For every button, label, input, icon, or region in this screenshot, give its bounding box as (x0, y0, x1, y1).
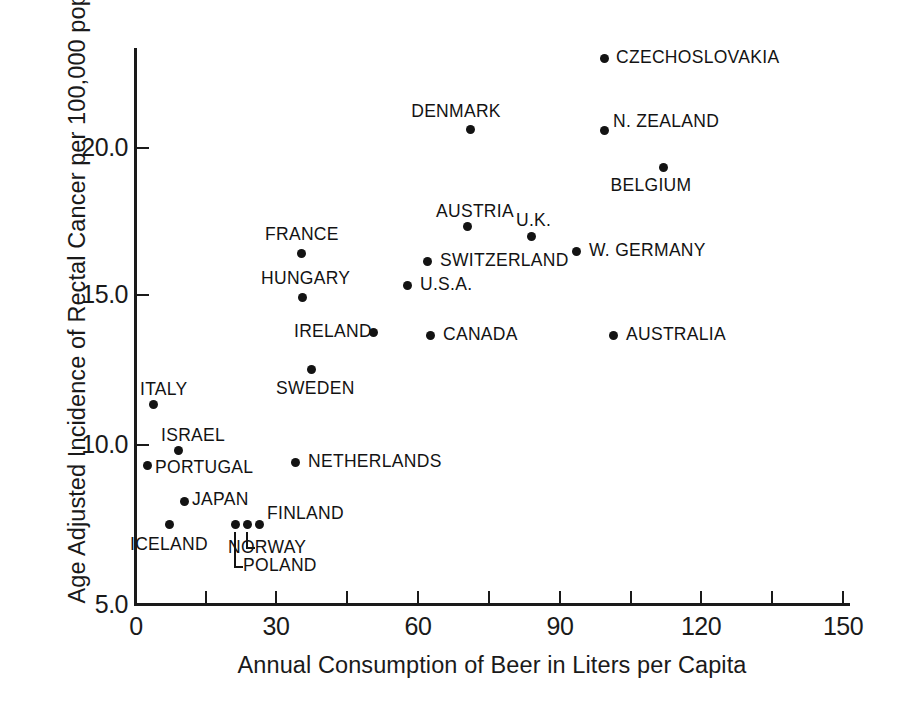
point-label-italy: ITALY (140, 381, 188, 399)
y-tick-20 (136, 147, 149, 149)
point-label-norway: NORWAY (228, 539, 306, 557)
x-tick-120 (700, 591, 702, 604)
point-label-sweden: SWEDEN (276, 380, 355, 398)
data-point-u-s-a (403, 281, 412, 290)
x-tick-105 (630, 591, 632, 604)
data-point-austria (463, 222, 472, 231)
point-label-austria: AUSTRIA (436, 203, 514, 221)
x-tick-label-30: 30 (241, 612, 311, 641)
point-label-n-zealand: N. ZEALAND (613, 113, 719, 131)
y-axis-line (134, 48, 137, 606)
x-tick-label-0: 0 (101, 612, 171, 641)
data-point-czechoslovakia (600, 54, 609, 63)
x-tick-30 (275, 591, 277, 604)
data-point-iceland (165, 520, 174, 529)
data-point-w-germany (572, 247, 581, 256)
point-label-japan: JAPAN (192, 491, 249, 509)
data-point-belgium (659, 163, 668, 172)
point-label-hungary: HUNGARY (261, 270, 350, 288)
x-tick-label-120: 120 (666, 612, 736, 641)
point-label-belgium: BELGIUM (611, 177, 692, 195)
x-tick-label-150: 150 (808, 612, 878, 641)
point-label-w-germany: W. GERMANY (589, 242, 706, 260)
y-tick-10 (136, 444, 149, 446)
point-label-u-s-a: U.S.A. (420, 276, 472, 294)
point-label-iceland: ICELAND (130, 536, 208, 554)
data-point-portugal (143, 461, 152, 470)
point-label-canada: CANADA (443, 326, 518, 344)
point-label-portugal: PORTUGAL (155, 459, 253, 477)
data-point-poland (231, 520, 240, 529)
x-tick-60 (417, 591, 419, 604)
point-label-denmark: DENMARK (411, 103, 501, 121)
x-tick-150 (842, 591, 844, 604)
x-tick-45 (346, 591, 348, 604)
point-label-finland: FINLAND (267, 505, 344, 523)
x-axis-line (134, 603, 850, 606)
point-label-netherlands: NETHERLANDS (308, 453, 442, 471)
data-point-netherlands (291, 458, 300, 467)
x-tick-label-90: 90 (525, 612, 595, 641)
data-point-finland (255, 520, 264, 529)
data-point-denmark (466, 125, 475, 134)
scatter-plot-figure: 20.0 15.0 10.0 5.0 0 30 60 90 120 150 Ag… (0, 0, 904, 712)
point-label-israel: ISRAEL (161, 427, 225, 445)
data-point-canada (426, 331, 435, 340)
data-point-japan (180, 497, 189, 506)
data-point-sweden (307, 365, 316, 374)
point-label-france: FRANCE (265, 226, 339, 244)
point-label-u-k: U.K. (516, 212, 551, 230)
x-tick-75 (488, 591, 490, 604)
poland-leader-horizontal (234, 566, 243, 568)
data-point-italy (149, 400, 158, 409)
x-tick-90 (559, 591, 561, 604)
data-point-n-zealand (600, 126, 609, 135)
point-label-ireland: IRELAND (294, 323, 372, 341)
data-point-hungary (298, 293, 307, 302)
point-label-switzerland: SWITZERLAND (440, 252, 569, 270)
data-point-australia (609, 331, 618, 340)
data-point-france (297, 249, 306, 258)
data-point-israel (174, 446, 183, 455)
x-tick-135 (771, 591, 773, 604)
data-point-norway (243, 520, 252, 529)
data-point-u-k (527, 232, 536, 241)
x-tick-15 (205, 591, 207, 604)
point-label-czechoslovakia: CZECHOSLOVAKIA (616, 49, 779, 67)
x-tick-label-60: 60 (383, 612, 453, 641)
y-tick-15 (136, 294, 149, 296)
x-axis-title: Annual Consumption of Beer in Liters per… (134, 652, 850, 679)
point-label-australia: AUSTRALIA (626, 326, 726, 344)
data-point-switzerland (423, 257, 432, 266)
point-label-poland: POLAND (243, 557, 317, 575)
y-axis-title: Age Adjusted Incidence of Rectal Cancer … (64, 44, 91, 604)
